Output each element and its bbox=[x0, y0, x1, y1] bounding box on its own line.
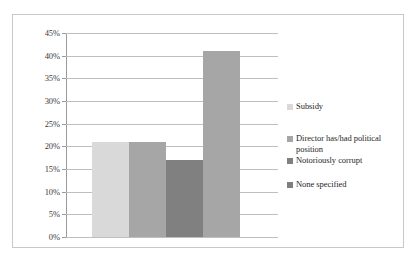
y-axis-tick-label: 20% bbox=[45, 141, 60, 151]
y-axis-tick-label: 10% bbox=[45, 187, 60, 197]
legend-item-label: None specified bbox=[296, 179, 347, 190]
legend-swatch-icon bbox=[287, 158, 293, 164]
legend-item[interactable]: Subsidy bbox=[287, 101, 323, 112]
bar bbox=[203, 51, 240, 237]
legend-swatch-icon bbox=[287, 104, 293, 110]
y-axis-tick-label: 30% bbox=[45, 96, 60, 106]
legend-item[interactable]: Director has/had political position bbox=[287, 133, 403, 154]
legend-item-label: Subsidy bbox=[296, 101, 323, 112]
legend-swatch-icon bbox=[287, 182, 293, 188]
chart-figure: 0%5%10%15%20%25%30%35%40%45% SubsidyDire… bbox=[12, 14, 404, 248]
legend-swatch-icon bbox=[287, 136, 293, 142]
y-axis-tick-label: 15% bbox=[45, 164, 60, 174]
y-axis-tick-label: 5% bbox=[49, 209, 60, 219]
bar bbox=[166, 160, 203, 237]
y-axis-tick-mark bbox=[62, 237, 66, 238]
legend-item-label: Director has/had political position bbox=[296, 133, 403, 154]
y-axis-tick-label: 25% bbox=[45, 119, 60, 129]
y-axis-tick-label: 35% bbox=[45, 73, 60, 83]
y-axis-tick-label: 45% bbox=[45, 28, 60, 38]
legend-item[interactable]: Notoriously corrupt bbox=[287, 155, 362, 166]
legend-item[interactable]: None specified bbox=[287, 179, 347, 190]
plot-area: 0%5%10%15%20%25%30%35%40%45% bbox=[66, 33, 278, 237]
legend-item-label: Notoriously corrupt bbox=[296, 155, 362, 166]
bars-layer bbox=[66, 33, 278, 237]
y-axis-tick-label: 0% bbox=[49, 232, 60, 242]
bar bbox=[129, 142, 166, 237]
gridline bbox=[66, 237, 278, 238]
y-axis-tick-label: 40% bbox=[45, 51, 60, 61]
bar bbox=[92, 142, 129, 237]
